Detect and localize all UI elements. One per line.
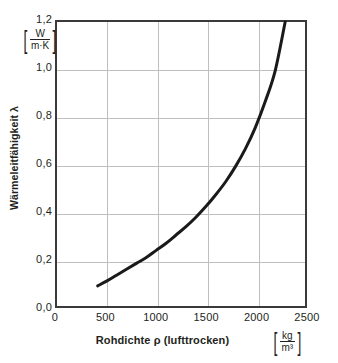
y-tick-label: 0,2	[4, 254, 52, 265]
x-unit-fraction: kg m³	[279, 330, 296, 353]
bracket-close-icon: ]	[53, 30, 57, 50]
y-axis-title: Wärmeleitfähigkeit λ	[8, 78, 20, 238]
y-tick-label: 1,2	[4, 14, 52, 25]
x-tick-label: 2000	[235, 312, 279, 323]
x-unit-denominator: m³	[280, 341, 295, 353]
x-tick-label: 500	[83, 312, 127, 323]
x-axis-unit: [ kg m³ ]	[272, 330, 302, 353]
bracket-open-icon: [	[274, 332, 278, 352]
x-tick-label: 0	[33, 312, 77, 323]
x-unit-numerator: kg	[280, 330, 295, 341]
y-unit-numerator: W	[30, 28, 50, 39]
y-unit-denominator: m·K	[30, 39, 50, 51]
thermal-conductivity-chart: 0,00,20,40,60,81,01,2 [ W m·K ] Wärmelei…	[0, 0, 338, 363]
x-tick-label: 2500	[285, 312, 329, 323]
data-curve	[57, 22, 305, 306]
bracket-close-icon: ]	[297, 332, 301, 352]
x-tick-label: 1000	[134, 312, 178, 323]
x-axis-title: Rohdichte ρ (lufttrocken)	[55, 334, 270, 346]
y-unit-fraction: W m·K	[29, 28, 51, 51]
y-axis-unit: [ W m·K ]	[22, 28, 58, 51]
plot-area	[55, 20, 307, 308]
x-tick-label: 1500	[184, 312, 228, 323]
bracket-open-icon: [	[24, 30, 28, 50]
y-tick-label: 1,0	[4, 62, 52, 73]
